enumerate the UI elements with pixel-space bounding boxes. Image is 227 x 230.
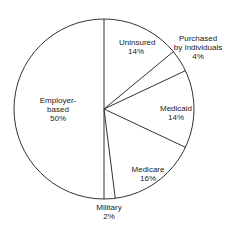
label-medicaid: Medicaid 14%: [158, 104, 194, 122]
label-text: Employer-: [38, 96, 78, 105]
label-value: 2%: [94, 212, 124, 221]
label-employer: Employer- based 50%: [38, 96, 78, 123]
label-text: Military: [94, 203, 124, 212]
label-value: 4%: [170, 52, 226, 61]
label-uninsured: Uninsured 14%: [119, 38, 153, 56]
label-value: 50%: [38, 114, 78, 123]
label-military: Military 2%: [94, 203, 124, 221]
label-value: 14%: [158, 113, 194, 122]
label-medicare: Medicare 16%: [130, 165, 166, 183]
label-text: Medicare: [130, 165, 166, 174]
label-purchased: Purchased by Individuals 4%: [170, 34, 226, 61]
label-text: Uninsured: [119, 38, 153, 47]
label-text: Medicaid: [158, 104, 194, 113]
label-value: 14%: [119, 47, 153, 56]
label-text: by Individuals: [170, 43, 226, 52]
label-text: Purchased: [170, 34, 226, 43]
pie-chart: Uninsured 14% Purchased by Individuals 4…: [0, 0, 227, 230]
label-text: based: [38, 105, 78, 114]
label-value: 16%: [130, 174, 166, 183]
